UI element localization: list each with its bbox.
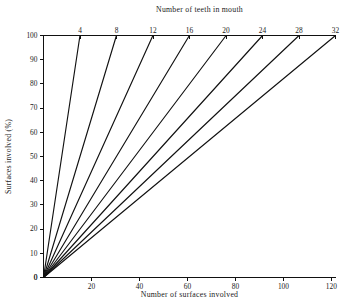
chart-canvas: 0102030405060708090100020406080100120481…	[0, 0, 344, 303]
top-tick-label: 32	[332, 26, 340, 35]
x-axis-title: Number of surfaces involved	[141, 290, 238, 299]
data-line-32-teeth	[44, 36, 336, 278]
y-tick-label: 40	[30, 176, 38, 185]
x-tick-label: 120	[326, 282, 337, 291]
y-axis-title: Surfaces involved (%)	[4, 119, 13, 194]
y-tick-label: 10	[30, 249, 38, 258]
y-tick-label: 70	[30, 103, 38, 112]
top-tick-label: 12	[149, 26, 157, 35]
y-tick-label: 50	[30, 152, 38, 161]
top-tick-label: 16	[186, 26, 194, 35]
y-tick-label: 30	[30, 200, 38, 209]
y-tick-label: 20	[30, 224, 38, 233]
data-line-4-teeth	[44, 36, 80, 278]
x-tick-label: 20	[88, 282, 96, 291]
top-axis-title: Number of teeth in mouth	[156, 5, 243, 14]
x-tick-label: 100	[278, 282, 289, 291]
data-line-12-teeth	[44, 36, 153, 278]
top-tick-label: 28	[295, 26, 303, 35]
data-line-8-teeth	[44, 36, 117, 278]
top-tick-label: 4	[78, 26, 82, 35]
top-tick-label: 20	[222, 26, 230, 35]
y-tick-label: 90	[30, 55, 38, 64]
y-tick-label: 80	[30, 79, 38, 88]
data-line-16-teeth	[44, 36, 190, 278]
y-tick-label: 100	[26, 31, 37, 40]
chart-figure: 0102030405060708090100020406080100120481…	[0, 0, 344, 303]
y-tick-label: 60	[30, 128, 38, 137]
top-tick-label: 24	[259, 26, 267, 35]
data-line-20-teeth	[44, 36, 227, 278]
data-line-24-teeth	[44, 36, 263, 278]
top-tick-label: 8	[115, 26, 119, 35]
data-line-28-teeth	[44, 36, 300, 278]
x-tick-label-zero: 0	[34, 273, 38, 282]
